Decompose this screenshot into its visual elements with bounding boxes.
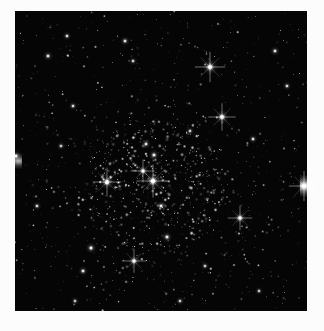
figure-root [0,0,324,331]
caption-layer [0,0,324,331]
